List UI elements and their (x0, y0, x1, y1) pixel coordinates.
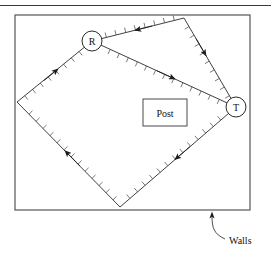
hatch-tick (106, 189, 110, 193)
hatch-tick (190, 35, 194, 38)
hatch-tick (215, 78, 219, 81)
hatch-tick (142, 182, 145, 186)
ray-direction-arrows (44, 26, 206, 166)
hatch-tick (113, 196, 117, 200)
hatch-tick (64, 64, 67, 68)
hatch-tick (29, 111, 33, 115)
hatch-tick (195, 136, 198, 140)
hatch-tick (149, 175, 152, 179)
hatch-tick (125, 28, 126, 33)
arrow-toward-left-lower-left (65, 151, 80, 166)
node-R-label: R (89, 36, 96, 47)
walls-rectangle (15, 15, 250, 210)
hatch-tick (108, 49, 110, 54)
hatch-tick (154, 70, 156, 75)
hatch-tick (57, 139, 61, 143)
hatch-tick (92, 175, 96, 179)
hatch-tick (144, 66, 146, 71)
hatch-tick (187, 142, 190, 146)
hatch-tick (154, 20, 155, 25)
hatch-tick (185, 27, 189, 30)
hatch-tick (78, 161, 82, 165)
hatch-tick (190, 87, 192, 92)
walls-callout: Walls (209, 212, 251, 246)
hatch-tick (163, 18, 164, 23)
hatch-tick (173, 16, 174, 21)
arrow-toward-R-top (135, 26, 152, 30)
hatch-tick (205, 61, 209, 64)
hatch-tick (218, 116, 221, 120)
hatch-tick (220, 87, 224, 90)
hatch-tick (36, 118, 40, 122)
post-box: Post (143, 99, 187, 126)
figure-root: R T Post Walls (0, 0, 271, 255)
hatch-tick (64, 146, 68, 150)
arrow-toward-T-middle (157, 71, 175, 79)
hatch-tick (165, 162, 168, 166)
hatch-tick (195, 44, 199, 47)
hatch-tick (202, 129, 205, 133)
segment-topright-to-T (184, 18, 236, 107)
hatch-tick (33, 89, 36, 93)
walls-callout-leader (212, 216, 225, 239)
hatch-tick (144, 23, 145, 28)
hatch-tick (208, 95, 210, 100)
hatch-tick (117, 54, 119, 59)
hatch-tick (50, 132, 54, 136)
hatch-tick (163, 74, 165, 79)
hatch-tick (126, 58, 128, 63)
hatch-tick (225, 96, 229, 99)
hatch-tick (180, 149, 183, 153)
hatch-tick (172, 79, 174, 84)
arrow-toward-bottom-lower-right (175, 147, 190, 160)
hatch-tick (135, 62, 137, 67)
hatch-tick (172, 155, 175, 159)
node-R[interactable]: R (82, 31, 102, 51)
node-T[interactable]: T (226, 97, 246, 117)
hatch-tick (199, 91, 201, 96)
hatch-tick (71, 58, 74, 62)
hatch-tick (40, 83, 43, 87)
hatch-tick (217, 99, 219, 104)
hatch-tick (134, 188, 137, 192)
hatch-tick (157, 169, 160, 173)
walls-label: Walls (229, 235, 252, 246)
ray-path-lines (17, 18, 236, 207)
hatch-tick (85, 168, 89, 172)
hatch-tick (210, 70, 214, 73)
ray-diagram: R T Post Walls (0, 0, 271, 255)
hatch-tick (79, 52, 82, 56)
hatch-tick (25, 96, 28, 100)
post-box-label: Post (156, 108, 173, 119)
hatch-tick (127, 195, 130, 199)
hatch-tick (115, 30, 116, 35)
hatch-tick (43, 125, 47, 129)
arrow-toward-R-upper-left (44, 69, 58, 80)
hatch-tick (210, 123, 213, 127)
hatch-tick (105, 33, 106, 38)
hatch-tick (99, 182, 103, 186)
hatch-tick (200, 53, 204, 56)
hatch-tick (134, 25, 135, 30)
hatch-tick (71, 154, 75, 158)
node-T-label: T (233, 102, 239, 113)
arrow-toward-T-upper-right (196, 39, 206, 56)
hatch-tick (181, 83, 183, 88)
